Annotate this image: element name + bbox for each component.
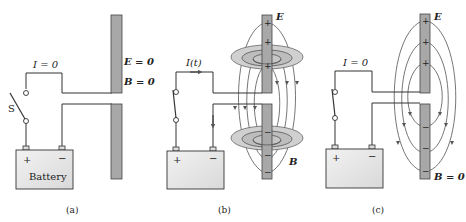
panel-caption: (c) [372, 205, 384, 215]
plate-charge-minus: − [264, 127, 272, 137]
battery-label: Battery [29, 171, 67, 182]
plate-charge-plus: + [422, 16, 430, 26]
battery-minus-sign: − [209, 153, 217, 164]
plate-charge-minus: − [264, 150, 272, 160]
switch-closed [173, 90, 179, 123]
magnetic-field-label: B = 0 [123, 76, 155, 87]
panel-b: + + + − − − + − I(t) E B (b) [167, 11, 303, 215]
capacitor-plate-top [111, 15, 122, 93]
plate-charge-plus: + [422, 58, 430, 68]
battery-plus-sign: + [332, 152, 340, 163]
capacitor-charging-diagram: + − Battery I = 0 S E = 0 B = 0 (a) [0, 0, 466, 222]
plate-charge-minus: − [422, 143, 430, 153]
capacitor-plate-bottom [111, 104, 122, 179]
panel-caption: (a) [66, 205, 78, 215]
magnetic-field-label: B [288, 156, 297, 167]
current-label: I = 0 [32, 59, 59, 70]
battery-plus-sign: + [173, 154, 181, 165]
panel-caption: (b) [218, 205, 231, 215]
plate-charge-plus: + [422, 37, 430, 47]
electric-field-label: E [433, 11, 442, 22]
panel-a: + − Battery I = 0 S E = 0 B = 0 (a) [8, 15, 155, 215]
current-label: I = 0 [342, 57, 369, 68]
panel-c: + + + − − − + − I = 0 E B = 0 (c) [326, 11, 465, 215]
switch-label: S [8, 103, 15, 114]
battery-plus-sign: + [23, 154, 31, 165]
current-label: I(t) [185, 57, 202, 68]
plate-charge-minus: − [422, 166, 430, 176]
circuit-wires [26, 73, 112, 148]
magnetic-field-label: B = 0 [433, 171, 465, 182]
electric-field-label: E = 0 [123, 56, 154, 67]
battery-minus-sign: − [58, 153, 66, 164]
plate-charge-minus: − [422, 122, 430, 132]
plate-charge-plus: + [264, 61, 272, 71]
battery-minus-sign: − [368, 151, 376, 162]
switch-closed [332, 89, 338, 121]
plate-charge-plus: + [264, 18, 272, 28]
plate-charge-plus: + [264, 37, 272, 47]
plate-charge-minus: − [264, 167, 272, 177]
electric-field-label: E [275, 11, 284, 22]
